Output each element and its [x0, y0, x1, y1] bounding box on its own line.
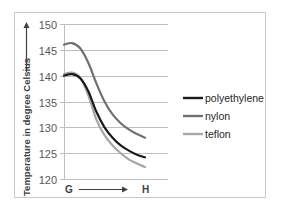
y-tick-labels: 150145140135130125120: [39, 19, 57, 186]
y-tick-label: 150: [39, 19, 57, 31]
y-tick-label: 130: [39, 122, 57, 134]
y-tick-label: 125: [39, 148, 57, 160]
y-axis-arrowhead-icon: [24, 22, 30, 28]
line-chart: 150145140135130125120 Temperature in deg…: [0, 0, 282, 215]
legend: polyethylenenylonteflon: [183, 92, 264, 140]
y-tick-label: 145: [39, 45, 57, 57]
y-tick-label: 140: [39, 71, 57, 83]
y-axis-title-text: Temperature in degree Celsius: [21, 58, 32, 196]
x-start-label: G: [65, 184, 73, 195]
y-tick-label: 135: [39, 97, 57, 109]
y-tick-label: 120: [39, 174, 57, 186]
y-axis-title: Temperature in degree Celsius: [21, 22, 32, 196]
x-end-label: H: [142, 184, 149, 195]
series-lines: [64, 43, 145, 167]
legend-label-polyethylene: polyethylene: [205, 92, 264, 104]
series-line-polyethylene: [64, 74, 145, 157]
x-axis-arrowhead-icon: [122, 187, 128, 193]
gridlines: [60, 25, 168, 180]
legend-label-teflon: teflon: [205, 128, 231, 140]
series-line-nylon: [64, 43, 145, 138]
legend-label-nylon: nylon: [205, 110, 230, 122]
